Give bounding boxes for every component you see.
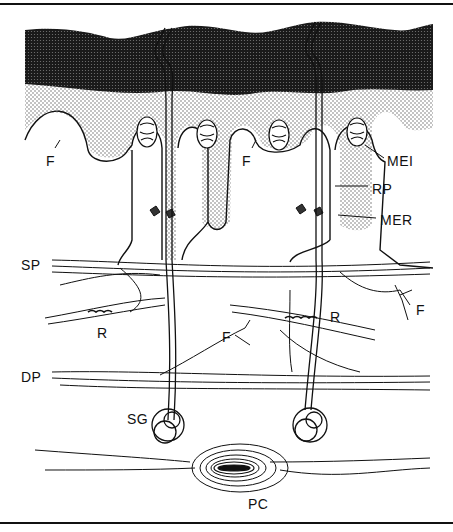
label-pc: PC (248, 497, 268, 511)
subpapillary-plexus (52, 260, 430, 312)
label-r-1: R (97, 326, 108, 340)
skin-cross-section-drawing (0, 0, 453, 532)
label-rp: RP (372, 182, 392, 196)
label-mer: MER (380, 213, 413, 227)
label-f-3: F (416, 303, 425, 317)
label-f-4: F (222, 330, 231, 344)
label-f-2: F (242, 154, 251, 168)
ruffini-endings (45, 298, 375, 340)
label-r-2: R (330, 310, 341, 324)
label-dp: DP (21, 370, 41, 384)
label-f-1: F (46, 154, 55, 168)
sweat-gland-coils (152, 408, 327, 443)
label-sp: SP (21, 258, 41, 272)
label-mei: MEI (387, 154, 413, 168)
pacinian-corpuscle (192, 444, 288, 492)
diagram-frame: F F MEI RP MER SP R R F F DP SG PC (0, 0, 453, 532)
label-sg: SG (127, 412, 148, 426)
stratum-corneum-dark-layer (25, 22, 433, 95)
